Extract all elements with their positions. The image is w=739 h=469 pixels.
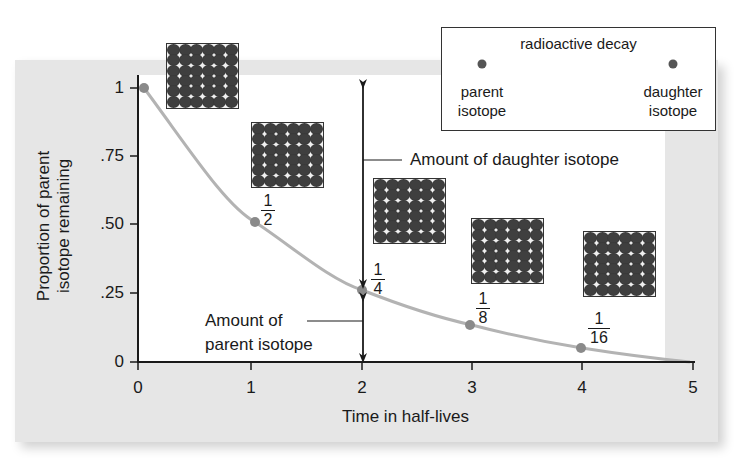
parent-amount-label-line2: parent isotope [205, 335, 313, 355]
y-tick-label: 0 [84, 352, 124, 372]
y-tick-marks [130, 88, 138, 362]
fraction-label-half: 12 [261, 193, 275, 228]
y-axis-title: Proportion of parent isotope remaining [34, 151, 74, 301]
legend-parent-label: parentisotope [452, 82, 512, 120]
x-tick-label: 3 [457, 378, 487, 398]
legend-daughter-label: daughterisotope [635, 82, 711, 120]
y-tick-label: .25 [84, 283, 124, 303]
y-tick-label: .50 [84, 214, 124, 234]
parent-amount-label-line1: Amount of [205, 311, 283, 331]
y-tick-label: .75 [84, 146, 124, 166]
y-axis-title-line2: isotope remaining [54, 151, 74, 301]
x-tick-label: 2 [347, 378, 377, 398]
daughter-amount-label: Amount of daughter isotope [410, 150, 619, 170]
x-tick-label: 4 [567, 378, 597, 398]
x-axis-title: Time in half-lives [342, 407, 469, 427]
x-tick-label: 1 [236, 378, 266, 398]
fraction-label-eighth: 18 [476, 291, 490, 326]
daughter-isotope-dot [669, 60, 678, 69]
x-tick-label: 5 [678, 378, 708, 398]
x-tick-marks [138, 362, 693, 370]
parent-isotope-dot [478, 60, 487, 69]
y-axis-title-line1: Proportion of parent [34, 151, 54, 301]
fraction-label-quarter: 14 [371, 262, 385, 297]
y-tick-label: 1 [84, 78, 124, 98]
fraction-label-sixteenth: 116 [588, 311, 610, 346]
legend-box: radioactive decay parentisotope daughter… [441, 27, 716, 131]
x-tick-label: 0 [123, 378, 153, 398]
